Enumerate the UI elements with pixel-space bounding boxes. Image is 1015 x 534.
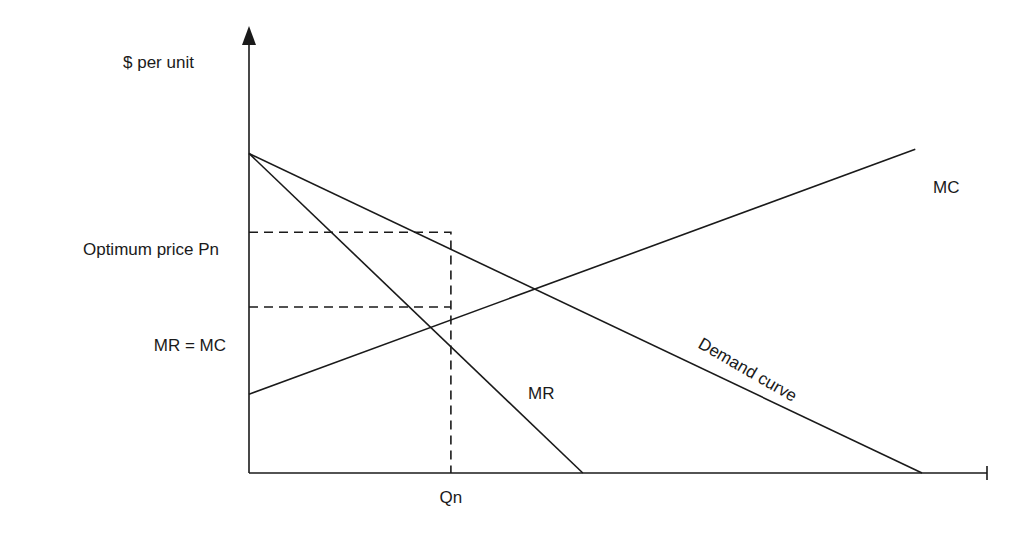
mr-equals-mc-label: MR = MC: [154, 336, 226, 355]
mc-line: [249, 149, 915, 394]
mc-curve-label: MC: [933, 178, 959, 197]
mr-line: [249, 153, 583, 473]
demand-curve-label: Demand curve: [695, 334, 800, 406]
y-axis-label: $ per unit: [123, 53, 194, 72]
y-axis-arrow-icon: [242, 26, 256, 45]
qn-label: Qn: [440, 488, 463, 507]
price-optimization-diagram: $ per unit Optimum price Pn MR = MC Qn M…: [0, 0, 1015, 534]
price-guide: [249, 232, 451, 473]
demand-curve-line: [249, 153, 922, 473]
optimum-price-label: Optimum price Pn: [83, 240, 219, 259]
mr-curve-label: MR: [528, 384, 554, 403]
